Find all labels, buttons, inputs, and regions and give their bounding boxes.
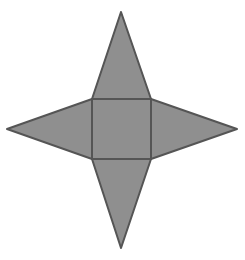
pyramid-net-svg <box>0 0 245 260</box>
right-triangle-face <box>151 99 237 159</box>
bottom-triangle-face <box>92 159 151 248</box>
pyramid-net-diagram <box>0 0 245 260</box>
left-triangle-face <box>7 99 92 159</box>
top-triangle-face <box>92 12 151 99</box>
square-base-face <box>92 99 151 159</box>
